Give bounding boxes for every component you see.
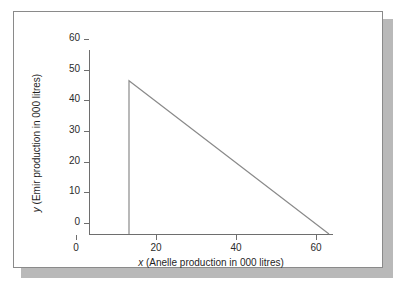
x-axis-line (89, 234, 333, 235)
y-axis-label: y (Emir production in 000 litres) (31, 73, 42, 211)
y-axis-label-container: y (Emir production in 000 litres) (14, 50, 58, 235)
y-tick-label: 30 (58, 124, 80, 135)
x-tick-mark (156, 235, 157, 240)
x-tick-label: 0 (56, 242, 96, 253)
y-axis-label-text: (Emir production in 000 litres) (31, 73, 42, 206)
y-tick-label: 50 (58, 63, 80, 74)
x-tick-label: 60 (296, 242, 336, 253)
x-tick-label: 20 (136, 242, 176, 253)
plot-area (89, 50, 329, 234)
y-tick-label: 20 (58, 155, 80, 166)
y-tick-label: 0 (58, 216, 80, 227)
y-tick-label: 10 (58, 185, 80, 196)
x-tick-mark (236, 235, 237, 240)
y-tick-label: 40 (58, 93, 80, 104)
x-axis-label-text: (Anelle production in 000 litres) (143, 257, 284, 268)
y-tick-mark (84, 39, 89, 40)
x-tick-label: 40 (216, 242, 256, 253)
x-axis-label: x (Anelle production in 000 litres) (89, 257, 333, 268)
y-axis-label-variable: y (31, 207, 42, 212)
figure-frame: 0204060 0102030405060 y (Emir production… (13, 11, 383, 268)
x-tick-mark (76, 235, 77, 240)
x-tick-mark (316, 235, 317, 240)
series-line (89, 50, 329, 234)
y-tick-label: 60 (58, 32, 80, 43)
